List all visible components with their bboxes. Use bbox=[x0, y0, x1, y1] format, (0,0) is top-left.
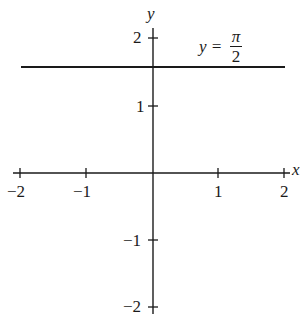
x-tick-label: 2 bbox=[280, 183, 289, 200]
chart-plot-area bbox=[0, 0, 302, 319]
y-tick-label: −1 bbox=[123, 232, 141, 249]
y-tick-label: 2 bbox=[133, 29, 142, 46]
y-tick-label: −2 bbox=[123, 298, 141, 315]
equation-fraction: π 2 bbox=[230, 28, 242, 65]
fraction-denominator: 2 bbox=[232, 48, 241, 65]
x-tick-label: 1 bbox=[214, 183, 223, 200]
equation-lhs: y = bbox=[199, 38, 222, 55]
y-axis-label: y bbox=[147, 5, 155, 22]
x-axis-label: x bbox=[292, 161, 300, 178]
x-tick-label: −2 bbox=[7, 183, 25, 200]
y-tick-label: 1 bbox=[136, 98, 145, 115]
x-tick-label: −1 bbox=[73, 183, 91, 200]
fraction-numerator: π bbox=[232, 28, 241, 45]
